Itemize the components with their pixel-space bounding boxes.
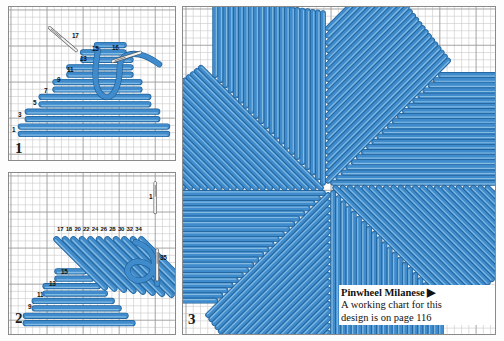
stitch-number-label: 34 (135, 226, 141, 232)
panel-1: 1 135791113151617 (8, 6, 176, 161)
caption-line-1: A working chart for this (341, 299, 496, 312)
stitch-number-label: 11 (67, 67, 73, 73)
panel-3: 3 Pinwheel Milanese ▶ A working chart fo… (182, 6, 496, 335)
stitch-number-label: 28 (109, 226, 115, 232)
stitch-number-label: 3 (18, 112, 21, 118)
stitch-number-label: 35 (160, 255, 167, 261)
stitch-number-label: 17 (57, 226, 63, 232)
stitch-number-label: 13 (80, 56, 87, 62)
stitch-number-label: 15 (92, 46, 99, 52)
stitch-number-label: 30 (118, 226, 124, 232)
caption-title: Pinwheel Milanese (341, 287, 425, 298)
stitch-number-label: 20 (74, 226, 80, 232)
caption-title-row: Pinwheel Milanese ▶ (341, 287, 496, 299)
panel-2: 2 9111315135 17182022242628303234 (8, 172, 176, 335)
stitch-number-label: 9 (28, 304, 31, 310)
stitch-number-label: 9 (57, 77, 60, 83)
stitch-number-label: 16 (112, 45, 119, 51)
panel-3-number: 3 (188, 312, 196, 327)
stitch-number-label: 17 (72, 33, 79, 39)
stitch-number-label: 24 (92, 226, 98, 232)
panel-1-stitches (9, 7, 175, 160)
stitch-number-label: 18 (66, 226, 72, 232)
stitch-number-label: 5 (33, 100, 36, 106)
stitch-number-label: 22 (83, 226, 89, 232)
stitch-number-label: 32 (127, 226, 133, 232)
caption-arrow-icon: ▶ (427, 287, 435, 298)
stitch-number-label: 11 (37, 292, 43, 298)
stitch-number-label: 1 (149, 194, 152, 200)
stitch-number-label: 26 (101, 226, 107, 232)
caption-line-2: design is on page 116 (341, 312, 496, 325)
stitch-number-label: 7 (44, 88, 47, 94)
panel-1-number: 1 (15, 141, 23, 156)
stitch-number-label: 13 (49, 281, 56, 287)
stitch-number-label: 15 (61, 269, 68, 275)
panel-2-number: 2 (15, 311, 23, 326)
stitch-number-label: 1 (12, 127, 15, 133)
caption: Pinwheel Milanese ▶ A working chart for … (339, 285, 496, 325)
chart-page: 1 135791113151617 2 9111315135 171820222… (0, 0, 504, 341)
